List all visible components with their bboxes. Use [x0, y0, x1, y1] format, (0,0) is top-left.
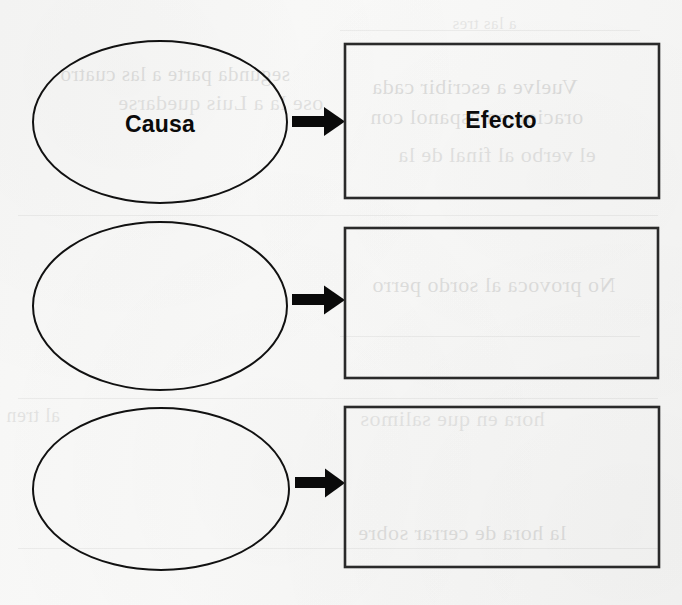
cause-oval-3[interactable] [33, 408, 289, 570]
arrow-2 [292, 286, 345, 315]
cause-oval-2[interactable] [33, 222, 287, 390]
cause-effect-diagram [0, 0, 682, 605]
effect-box-3[interactable] [345, 407, 659, 567]
arrow-3 [295, 469, 345, 498]
effect-label: Efecto [465, 107, 537, 134]
worksheet-page: segunda parte a las cuatroose la a Luis … [0, 0, 682, 605]
cause-label: Causa [125, 111, 195, 138]
effect-box-2[interactable] [345, 228, 658, 378]
arrow-1 [292, 107, 345, 136]
